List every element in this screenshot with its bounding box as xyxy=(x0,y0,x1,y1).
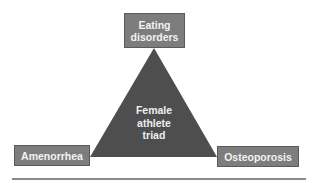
vertex-box-osteoporosis: Osteoporosis xyxy=(217,146,299,167)
female-athlete-triad-diagram: Eating disorders Female athlete triad Am… xyxy=(0,0,314,183)
vertex-box-amenorrhea: Amenorrhea xyxy=(14,145,90,166)
vertex-box-eating-disorders: Eating disorders xyxy=(124,13,185,48)
horizontal-divider xyxy=(12,178,306,180)
triad-center-label: Female athlete triad xyxy=(119,104,189,142)
